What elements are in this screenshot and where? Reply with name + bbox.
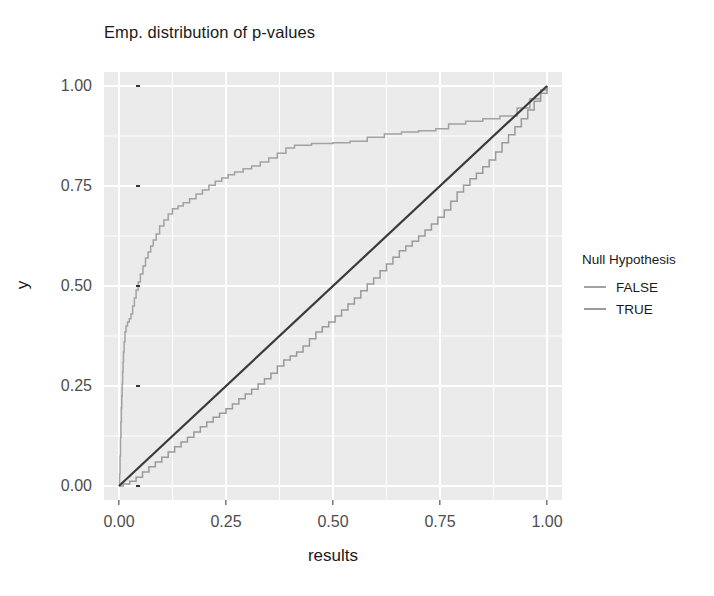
legend-title: Null Hypothesis: [582, 252, 710, 267]
y-axis-label: y: [13, 255, 33, 315]
y-tick-mark: [136, 285, 141, 286]
y-axis-ticks: 0.000.250.500.751.00: [36, 72, 92, 500]
chart-root: Emp. distribution of p-values 0.000.250.…: [0, 0, 714, 596]
y-tick-mark: [136, 85, 141, 86]
x-tick-mark: [439, 500, 440, 505]
x-tick-label: 0.50: [317, 513, 348, 531]
legend-item-false[interactable]: FALSE: [582, 276, 710, 298]
x-tick-label: 0.75: [424, 513, 455, 531]
x-axis-ticks: 0.000.250.500.751.00: [104, 500, 562, 540]
x-tick-mark: [546, 500, 547, 505]
x-tick-mark: [118, 500, 119, 505]
page-title: Emp. distribution of p-values: [104, 23, 315, 42]
y-tick-mark: [136, 485, 141, 486]
y-tick-label: 0.75: [36, 177, 92, 195]
x-tick-mark: [225, 500, 226, 505]
plot-canvas: [104, 72, 562, 500]
x-tick-label: 0.25: [210, 513, 241, 531]
legend-item-label: FALSE: [616, 280, 658, 295]
plot-panel: [104, 72, 562, 500]
y-tick-label: 1.00: [36, 77, 92, 95]
legend-key-swatch: [582, 298, 608, 320]
legend-item-label: TRUE: [616, 302, 653, 317]
legend: Null Hypothesis FALSETRUE: [582, 252, 710, 320]
y-tick-label: 0.25: [36, 377, 92, 395]
legend-items: FALSETRUE: [582, 276, 710, 320]
x-tick-label: 1.00: [531, 513, 562, 531]
x-tick-label: 0.00: [103, 513, 134, 531]
x-tick-mark: [332, 500, 333, 505]
y-tick-mark: [136, 385, 141, 386]
x-axis-label: results: [104, 546, 562, 566]
legend-key-swatch: [582, 276, 608, 298]
y-tick-mark: [136, 185, 141, 186]
legend-item-true[interactable]: TRUE: [582, 298, 710, 320]
y-tick-label: 0.50: [36, 277, 92, 295]
y-tick-label: 0.00: [36, 477, 92, 495]
